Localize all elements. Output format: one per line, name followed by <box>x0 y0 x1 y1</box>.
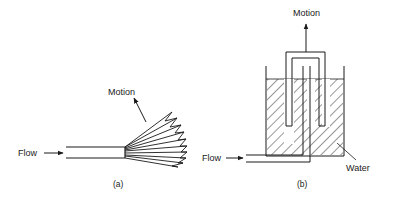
panel-b <box>226 24 356 162</box>
motion-label-a: Motion <box>108 87 135 97</box>
flow-label-b: Flow <box>202 153 221 163</box>
caption-b: (b) <box>297 179 307 189</box>
water-label: Water <box>346 163 370 173</box>
flow-label-a: Flow <box>18 148 37 158</box>
flexing-tube-fan <box>125 112 187 167</box>
tube-a <box>66 147 125 158</box>
panel-a <box>44 98 187 167</box>
motion-label-b: Motion <box>293 8 320 18</box>
caption-a: (a) <box>113 179 123 189</box>
water-fill <box>267 79 343 155</box>
motion-arrow-a <box>134 98 146 122</box>
